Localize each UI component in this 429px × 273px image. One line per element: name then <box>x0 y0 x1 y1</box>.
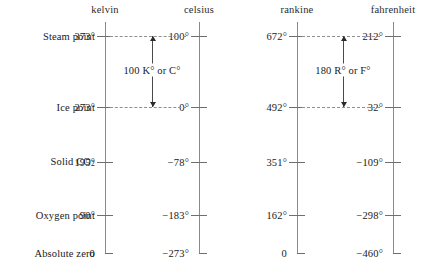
tick-oxygen-point-rankine <box>289 215 305 216</box>
axis-line-celsius <box>199 22 200 253</box>
axis-line-fahrenheit <box>393 22 394 253</box>
axis-header-fahrenheit: fahrenheit <box>371 4 416 15</box>
value-ice-point-kelvin: 273° <box>74 102 95 113</box>
tick-solid-co2-fahrenheit <box>385 162 401 163</box>
tick-steam-point-celsius <box>191 36 207 37</box>
tick-absolute-zero-kelvin <box>105 253 113 254</box>
tick-steam-point-fahrenheit <box>385 36 401 37</box>
value-oxygen-point-fahrenheit: −298° <box>356 210 383 221</box>
span-arrow-head-up-imperial-span <box>341 36 347 41</box>
tick-solid-co2-rankine <box>289 162 305 163</box>
value-oxygen-point-rankine: 162° <box>266 210 287 221</box>
dashed-connector-metric-span-top <box>110 36 186 37</box>
tick-oxygen-point-celsius <box>191 215 207 216</box>
tick-absolute-zero-fahrenheit <box>393 253 401 254</box>
axis-line-rankine <box>297 22 298 253</box>
span-label-metric-span: 100 K° or C° <box>120 64 183 77</box>
tick-oxygen-point-kelvin <box>97 215 113 216</box>
axis-header-rankine: rankine <box>281 4 314 15</box>
value-solid-co2-kelvin: 195° <box>74 157 95 168</box>
value-steam-point-rankine: 672° <box>266 31 287 42</box>
value-absolute-zero-kelvin: 0 <box>90 248 95 259</box>
temperature-scale-diagram: kelvincelsiusrankinefahrenheitSteam poin… <box>0 0 429 273</box>
row-label-absolute-zero: Absolute zero <box>34 248 95 259</box>
value-ice-point-rankine: 492° <box>266 102 287 113</box>
value-oxygen-point-celsius: −183° <box>162 210 189 221</box>
value-oxygen-point-kelvin: 90° <box>80 210 95 221</box>
axis-header-kelvin: kelvin <box>91 4 118 15</box>
value-steam-point-kelvin: 373° <box>74 31 95 42</box>
span-arrow-head-down-metric-span <box>150 102 156 107</box>
tick-solid-co2-kelvin <box>97 162 113 163</box>
span-arrow-head-down-imperial-span <box>341 102 347 107</box>
dashed-connector-imperial-span-bottom <box>302 107 380 108</box>
value-solid-co2-fahrenheit: −109° <box>356 157 383 168</box>
dashed-connector-metric-span-bottom <box>110 107 186 108</box>
value-absolute-zero-fahrenheit: −460° <box>356 248 383 259</box>
tick-oxygen-point-fahrenheit <box>385 215 401 216</box>
value-solid-co2-celsius: −78° <box>168 157 189 168</box>
value-absolute-zero-celsius: −273° <box>162 248 189 259</box>
tick-absolute-zero-celsius <box>199 253 207 254</box>
span-arrow-head-up-metric-span <box>150 36 156 41</box>
value-absolute-zero-rankine: 0 <box>282 248 287 259</box>
axis-line-kelvin <box>105 22 106 253</box>
value-solid-co2-rankine: 351° <box>266 157 287 168</box>
span-label-imperial-span: 180 R° or F° <box>312 64 373 77</box>
tick-ice-point-fahrenheit <box>385 107 401 108</box>
tick-ice-point-celsius <box>191 107 207 108</box>
tick-solid-co2-celsius <box>191 162 207 163</box>
tick-absolute-zero-rankine <box>297 253 305 254</box>
axis-header-celsius: celsius <box>184 4 214 15</box>
